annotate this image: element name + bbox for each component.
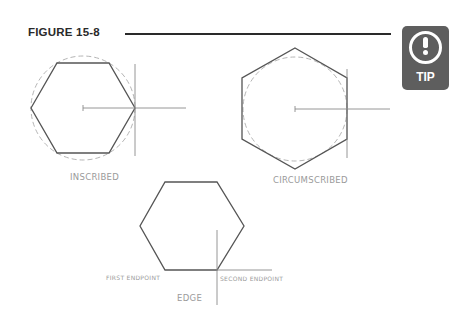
circumscribed-hexagon xyxy=(242,48,347,169)
inscribed-diagram xyxy=(31,56,186,160)
first-endpoint-label: FIRST ENDPOINT xyxy=(106,274,160,281)
edge-diagram xyxy=(140,182,272,305)
second-endpoint-label: SECOND ENDPOINT xyxy=(220,275,283,282)
hexagon-diagrams xyxy=(0,0,469,313)
inscribed-label: INSCRIBED xyxy=(70,172,119,182)
edge-hexagon xyxy=(140,182,244,270)
circumscribed-label: CIRCUMSCRIBED xyxy=(273,175,348,185)
edge-label: EDGE xyxy=(177,293,202,303)
circumscribed-diagram xyxy=(242,48,390,169)
